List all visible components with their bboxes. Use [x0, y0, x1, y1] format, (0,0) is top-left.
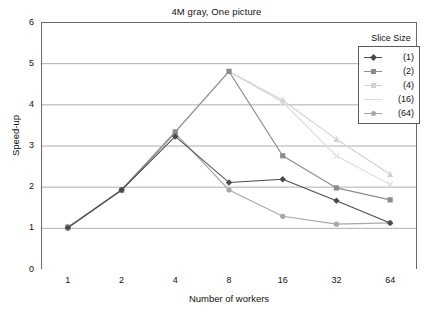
- series-line: [68, 71, 390, 227]
- data-point-marker: [226, 187, 231, 192]
- series-16: [65, 69, 392, 231]
- x-tick-label: 1: [53, 276, 83, 285]
- x-tick-label: 8: [214, 276, 244, 285]
- legend-swatch-icon: [362, 79, 384, 91]
- legend-item-4[interactable]: (4): [362, 78, 416, 92]
- legend-swatch-icon: [362, 93, 384, 105]
- data-point-marker: [334, 222, 339, 227]
- y-tick-label: 6: [16, 18, 34, 27]
- data-point-marker: [333, 197, 339, 203]
- legend-swatch-icon: [362, 107, 384, 119]
- y-tick-label: 1: [16, 223, 34, 232]
- data-point-marker: [388, 182, 393, 187]
- series-2: [65, 69, 392, 230]
- legend-title: Slice Size: [358, 33, 424, 43]
- data-point-marker: [334, 185, 339, 190]
- y-tick-label: 3: [16, 141, 34, 150]
- legend-item-1[interactable]: (1): [362, 50, 416, 64]
- legend-label: (64): [384, 108, 416, 118]
- series-4: [65, 68, 393, 230]
- chart-title: 4M gray, One picture: [0, 6, 433, 17]
- legend-label: (4): [384, 80, 416, 90]
- data-point-marker: [280, 176, 286, 182]
- data-point-marker: [387, 220, 393, 226]
- y-tick-label: 2: [16, 182, 34, 191]
- x-tick-label: 32: [321, 276, 351, 285]
- legend-item-16[interactable]: (16): [362, 92, 416, 106]
- legend-label: (2): [384, 66, 416, 76]
- legend-item-64[interactable]: (64): [362, 106, 416, 120]
- legend-swatch-icon: [362, 51, 384, 63]
- legend-label: (1): [384, 52, 416, 62]
- y-tick-label: 0: [16, 265, 34, 274]
- x-tick-label: 64: [375, 276, 405, 285]
- data-point-marker: [388, 197, 393, 202]
- x-axis-label: Number of workers: [41, 293, 417, 304]
- data-point-marker: [226, 69, 231, 74]
- legend: (1)(2)(4)(16)(64): [358, 46, 420, 124]
- series-line: [68, 71, 390, 227]
- data-point-marker: [387, 171, 393, 177]
- data-point-marker: [333, 136, 339, 142]
- data-point-marker: [280, 153, 285, 158]
- y-axis-label: Speed-up: [10, 101, 21, 171]
- series-line: [68, 71, 390, 227]
- legend-item-2[interactable]: (2): [362, 64, 416, 78]
- y-tick-label: 4: [16, 100, 34, 109]
- x-tick-label: 4: [160, 276, 190, 285]
- y-tick-label: 5: [16, 59, 34, 68]
- legend-label: (16): [384, 94, 416, 104]
- x-tick-label: 2: [107, 276, 137, 285]
- legend-swatch-icon: [362, 65, 384, 77]
- speedup-line-chart: 4M gray, One picture Speed-up 0123456 12…: [0, 0, 433, 314]
- data-point-marker: [280, 214, 285, 219]
- x-tick-label: 16: [268, 276, 298, 285]
- data-point-marker: [334, 153, 339, 158]
- series-1: [65, 133, 394, 231]
